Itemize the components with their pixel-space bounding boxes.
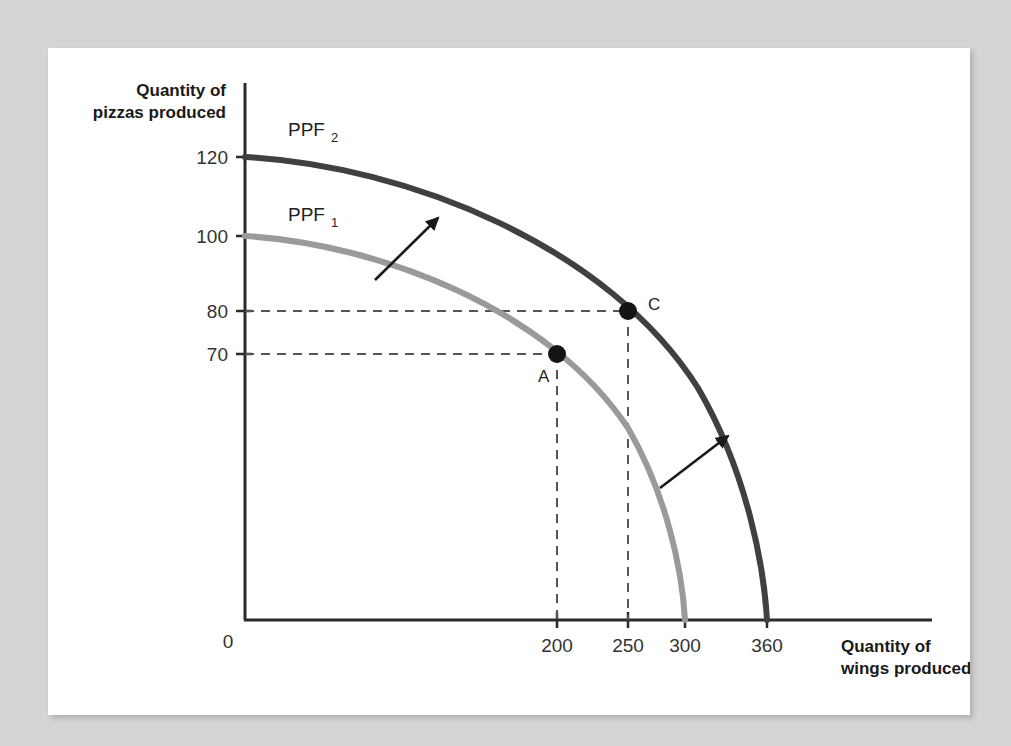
figure-panel: 120 100 80 70 200 250 300 360 0 Quantity… — [48, 48, 970, 715]
data-point-a-label: A — [538, 367, 550, 386]
shift-arrow-lower — [660, 436, 728, 488]
x-tick-label-200: 200 — [541, 635, 573, 656]
data-point-c[interactable] — [619, 302, 637, 320]
x-axis-title-line2: wings produced — [840, 659, 970, 678]
x-axis-title-line1: Quantity of — [841, 637, 931, 656]
data-point-a[interactable] — [548, 345, 566, 363]
y-axis-title-line1: Quantity of — [136, 81, 226, 100]
ppf1-label: PPF — [288, 204, 325, 225]
y-axis-title-line2: pizzas produced — [93, 103, 226, 122]
chart-axes — [244, 83, 932, 620]
ppf1-curve — [245, 236, 685, 620]
figure-root: 120 100 80 70 200 250 300 360 0 Quantity… — [0, 0, 1011, 746]
y-tick-label-120: 120 — [196, 147, 228, 168]
x-tick-label-300: 300 — [669, 635, 701, 656]
ppf2-label: PPF — [288, 119, 325, 140]
guide-lines — [245, 311, 628, 620]
origin-label: 0 — [223, 631, 234, 652]
x-tick-label-360: 360 — [751, 635, 783, 656]
ppf2-curve — [245, 157, 767, 620]
y-tick-label-100: 100 — [196, 226, 228, 247]
ppf-chart: 120 100 80 70 200 250 300 360 0 Quantity… — [48, 48, 970, 715]
y-tick-label-70: 70 — [207, 344, 228, 365]
y-tick-label-80: 80 — [207, 301, 228, 322]
ppf1-label-subscript: 1 — [331, 215, 338, 230]
ppf2-label-subscript: 2 — [331, 130, 338, 145]
x-tick-label-250: 250 — [612, 635, 644, 656]
data-point-c-label: C — [648, 295, 660, 314]
